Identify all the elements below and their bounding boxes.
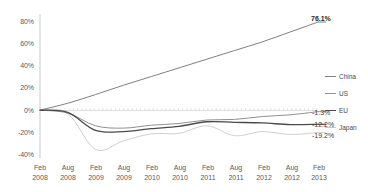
x-tick-year: 2008 — [25, 173, 55, 183]
x-tick-month: Feb — [81, 163, 111, 173]
x-tick-month: Aug — [53, 163, 83, 173]
x-tick-year: 2013 — [304, 173, 334, 183]
x-axis-tick-label: Aug2008 — [53, 163, 83, 182]
legend-item-china[interactable]: China — [325, 70, 368, 83]
data-label-china: 76.1% — [311, 15, 331, 22]
legend-swatch-eu — [325, 110, 336, 111]
x-tick-month: Aug — [109, 163, 139, 173]
legend-swatch-china — [325, 76, 336, 77]
x-axis-tick-label: Feb2011 — [193, 163, 223, 182]
x-tick-year: 2012 — [249, 173, 279, 183]
legend-item-eu[interactable]: EU — [325, 104, 368, 117]
series-line-eu — [40, 110, 318, 132]
legend-swatch-us — [325, 93, 336, 94]
legend-item-us[interactable]: US — [325, 87, 368, 100]
x-tick-year: 2010 — [165, 173, 195, 183]
x-tick-month: Aug — [165, 163, 195, 173]
x-tick-month: Feb — [249, 163, 279, 173]
series-line-us — [40, 110, 318, 128]
x-axis-tick-label: Feb2010 — [137, 163, 167, 182]
x-axis-tick-label: Aug2010 — [165, 163, 195, 182]
x-tick-month: Feb — [25, 163, 55, 173]
x-axis-tick-label: Aug2012 — [277, 163, 307, 182]
chart-legend: China US EU Japan — [325, 70, 368, 138]
x-axis-tick-label: Feb2013 — [304, 163, 334, 182]
series-line-china — [40, 22, 318, 110]
x-tick-year: 2009 — [109, 173, 139, 183]
legend-item-japan[interactable]: Japan — [325, 121, 368, 134]
legend-label-eu: EU — [339, 107, 348, 114]
x-axis-tick-label: Feb2012 — [249, 163, 279, 182]
x-tick-month: Aug — [277, 163, 307, 173]
legend-label-china: China — [339, 73, 356, 80]
legend-swatch-japan — [325, 127, 336, 128]
line-chart: 80% 60% 40% 20% 0% -20% -40% 76.1% -1.3%… — [0, 0, 368, 192]
x-axis-tick-label: Aug2009 — [109, 163, 139, 182]
legend-label-japan: Japan — [339, 124, 357, 131]
x-tick-month: Feb — [193, 163, 223, 173]
legend-label-us: US — [339, 90, 348, 97]
x-tick-month: Feb — [304, 163, 334, 173]
x-tick-year: 2011 — [221, 173, 251, 183]
x-tick-year: 2010 — [137, 173, 167, 183]
x-tick-year: 2008 — [53, 173, 83, 183]
x-tick-year: 2009 — [81, 173, 111, 183]
x-tick-year: 2011 — [193, 173, 223, 183]
x-axis-tick-label: Feb2008 — [25, 163, 55, 182]
x-axis-tick-label: Feb2009 — [81, 163, 111, 182]
series-lines — [40, 22, 326, 151]
x-tick-year: 2012 — [277, 173, 307, 183]
x-tick-month: Aug — [221, 163, 251, 173]
x-axis-tick-label: Aug2011 — [221, 163, 251, 182]
x-tick-month: Feb — [137, 163, 167, 173]
